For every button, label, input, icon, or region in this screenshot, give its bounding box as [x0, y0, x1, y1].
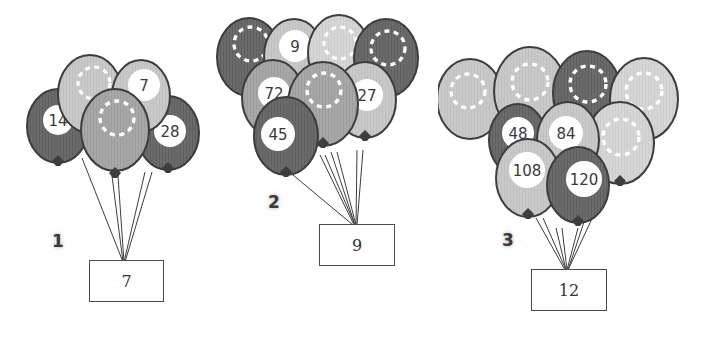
cluster-index-3: 3 [502, 230, 514, 250]
answer-box-1[interactable]: 7 [89, 260, 164, 302]
answer-box-value: 9 [352, 236, 362, 255]
balloon: 120 [547, 147, 609, 226]
answer-box-value: 12 [559, 281, 579, 300]
balloon-label: 27 [357, 87, 376, 105]
balloon-label: 45 [268, 126, 287, 144]
answer-box-value: 7 [121, 272, 131, 291]
cluster-3-graphic: 48 84 108 120 [438, 0, 713, 310]
cluster-1-graphic: 14 28 7 [0, 0, 240, 300]
balloon: 45 [254, 97, 318, 177]
cluster-index-2: 2 [268, 192, 280, 212]
answer-box-2[interactable]: 9 [319, 224, 395, 266]
cluster-index-1: 1 [52, 231, 64, 251]
balloon-label: 28 [160, 123, 179, 141]
balloon-label: 108 [513, 162, 542, 180]
answer-box-3[interactable]: 12 [531, 269, 607, 311]
balloon [81, 89, 149, 178]
balloon-cluster-2: 9 72 27 [205, 0, 435, 290]
balloon-cluster-3: 48 84 108 120 3 [438, 0, 713, 310]
balloon-label: 9 [290, 38, 300, 56]
balloon-label: 84 [556, 125, 575, 143]
balloon-label: 7 [139, 77, 149, 95]
balloon-label: 120 [570, 171, 599, 189]
balloon-cluster-1: 14 28 7 [0, 0, 240, 300]
worksheet-canvas: 14 28 7 [0, 0, 713, 340]
